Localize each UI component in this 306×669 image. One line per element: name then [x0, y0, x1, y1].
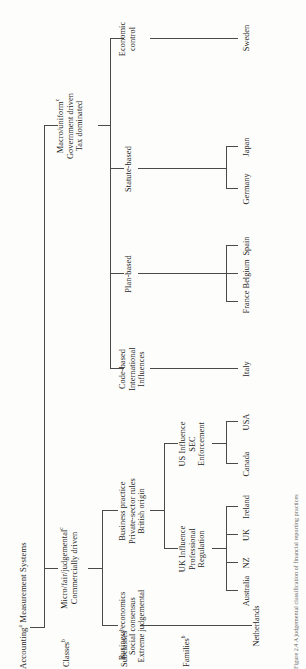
connector-statute-span — [226, 147, 227, 189]
connector-plan-stem — [138, 273, 226, 274]
leaf-country-belgium[interactable]: Belgium — [242, 257, 251, 291]
row-label-families-text: Families — [182, 638, 191, 667]
leaf-label-spain: Spain — [242, 236, 251, 255]
leaf-country-japan[interactable]: Japan — [242, 130, 251, 164]
connector-us-leaf-1 — [226, 463, 238, 464]
row-label-families: Familiesb — [182, 635, 191, 667]
leaf-label-ireland: Ireland — [242, 495, 251, 519]
leaf-country-spain[interactable]: Spain — [242, 231, 251, 261]
subclass-beco-line-3: Extreme judgemental — [137, 573, 147, 669]
class-macro-line-1: Macro/uniform — [56, 101, 65, 153]
leaf-country-sweden[interactable]: Sweden — [242, 19, 251, 57]
class-micro-line-1: Micro/fair/judgemental — [60, 530, 69, 609]
leaf-label-usa: USA — [242, 414, 251, 431]
connector-macro-stem — [98, 125, 110, 126]
class-macro-line-2: Government driven — [66, 73, 76, 179]
connector-micro-to-beco — [102, 625, 118, 626]
family-uk-line-2: Professional — [188, 501, 198, 597]
subclass-beco-line-2: Social consensus — [128, 573, 138, 669]
subclass-econ-line-1: Economic — [118, 0, 128, 84]
figure-title: Accountinga Measurement Systems — [18, 587, 28, 669]
subclass-bprac-line-1: Business practice — [118, 458, 128, 564]
leaf-label-italy: Italy — [242, 361, 251, 376]
subclass-code-line-3: Influences — [137, 319, 147, 419]
subclass-econ-line-2: control — [128, 0, 138, 84]
subclass-code-line-2: International — [128, 319, 138, 419]
leaf-country-ireland[interactable]: Ireland — [242, 491, 251, 523]
connector-root-stem — [30, 627, 44, 628]
connector-statute-stem — [138, 168, 226, 169]
class-macro-line-3: Tax dominated — [75, 73, 85, 179]
subclass-bprac-line-3: British origin — [137, 458, 147, 564]
class-macro-sup: c — [54, 99, 60, 102]
family-netherlands-label: Netherlands — [252, 583, 262, 669]
connector-code-to-italy — [150, 368, 238, 369]
figure-title-rest: Measurement Systems — [18, 542, 28, 625]
family-us-line-3: Enforcement — [197, 396, 207, 492]
connector-bprac-to-us — [164, 443, 178, 444]
leaf-label-canada: Canada — [242, 451, 251, 476]
connector-root-to-span — [44, 568, 45, 628]
connector-micro-stem — [88, 568, 102, 569]
connector-bprac-span — [164, 444, 165, 549]
connector-statute-leaf-1 — [226, 188, 238, 189]
connector-plan-leaf-3 — [226, 245, 238, 246]
row-label-families-sup: b — [180, 635, 186, 638]
leaf-label-france: France — [242, 291, 251, 314]
subclass-beco-line-1: Business economics — [118, 573, 128, 669]
connector-plan-leaf-2 — [226, 273, 238, 274]
connector-uk-leaf-3 — [226, 534, 238, 535]
leaf-label-sweden: Sweden — [242, 25, 251, 52]
connector-micro-to-bprac — [102, 510, 118, 511]
row-label-classes-sup: b — [60, 639, 66, 642]
connector-uk-leaf-1 — [226, 590, 238, 591]
family-node-uk-influence[interactable]: UK Influence Professional Regulation — [178, 501, 207, 597]
leaf-label-japan: Japan — [242, 137, 251, 156]
diagram-stage: Accountinga Measurement Systems Classesb… — [0, 0, 306, 669]
class-micro-sup: c — [58, 527, 64, 530]
connector-uk-leaf-4 — [226, 506, 238, 507]
row-label-classes: Classesb — [62, 639, 71, 667]
subclass-node-economic-control[interactable]: Economic control — [118, 0, 137, 84]
subclass-node-business-economics[interactable]: Business economics Social consensus Extr… — [118, 573, 147, 669]
class-node-micro[interactable]: Micro/fair/judgementalc Commercially dri… — [60, 507, 79, 629]
leaf-country-usa[interactable]: USA — [242, 408, 251, 436]
connector-micro-span — [102, 511, 103, 626]
subclass-node-code-based[interactable]: Code-based International Influences — [118, 319, 147, 419]
connector-class-micro — [44, 568, 58, 569]
figure-caption: Figure 2.4 A judgemental classification … — [292, 494, 299, 669]
leaf-country-germany[interactable]: Germany — [242, 169, 251, 209]
subclass-node-statute-based[interactable]: Statute-based — [124, 119, 134, 219]
leaf-country-nz[interactable]: NZ — [242, 551, 251, 575]
connector-us-stem — [212, 443, 226, 444]
connector-uk-leaf-2 — [226, 562, 238, 563]
leaf-label-germany: Germany — [242, 173, 251, 204]
leaf-country-italy[interactable]: Italy — [242, 353, 251, 385]
row-label-classes-text: Classes — [62, 642, 71, 667]
leaf-country-canada[interactable]: Canada — [242, 446, 251, 482]
leaf-country-uk[interactable]: UK — [242, 523, 251, 547]
subclass-statute-line-1: Statute-based — [124, 119, 134, 219]
connector-root-span — [44, 126, 45, 569]
connector-bprac-stem — [150, 510, 164, 511]
connector-plan-leaf-1 — [226, 301, 238, 302]
subclass-plan-line-1: Plan-based — [124, 224, 134, 324]
subclass-node-business-practice[interactable]: Business practice Private-sector rules B… — [118, 458, 147, 564]
leaf-country-australia[interactable]: Australia — [242, 573, 251, 609]
family-node-us-influence[interactable]: US Influence SEC Enforcement — [178, 396, 207, 492]
family-node-netherlands[interactable]: Netherlands — [252, 583, 262, 669]
family-us-line-1: US Influence — [178, 396, 188, 492]
leaf-label-uk: UK — [242, 529, 251, 541]
connector-plan-span — [226, 246, 227, 302]
connector-beco-to-netherlands — [140, 625, 252, 626]
class-node-macro[interactable]: Macro/uniformc Government driven Tax dom… — [56, 73, 85, 179]
subclass-code-line-1: Code-based — [118, 319, 128, 419]
connector-bprac-to-uk — [164, 548, 178, 549]
subclass-bprac-line-2: Private-sector rules — [128, 458, 138, 564]
leaf-label-nz: NZ — [242, 557, 251, 568]
family-uk-line-1: UK Influence — [178, 501, 188, 597]
family-uk-line-3: Regulation — [197, 501, 207, 597]
connector-macro-to-statute — [110, 168, 124, 169]
family-us-line-2: SEC — [188, 396, 198, 492]
subclass-node-plan-based[interactable]: Plan-based — [124, 224, 134, 324]
